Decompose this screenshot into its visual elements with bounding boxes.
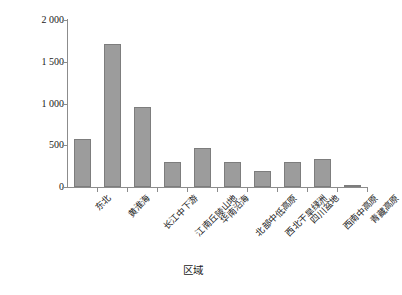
x-category-label: 长江中下游: [161, 193, 201, 233]
y-tick-mark: [62, 62, 67, 63]
bar: [254, 171, 271, 187]
y-tick-mark: [62, 145, 67, 146]
x-tick-mark: [367, 188, 368, 192]
y-tick-label: 1 000: [24, 99, 64, 109]
x-axis-title: 区域: [0, 265, 385, 277]
x-tick-mark: [247, 188, 248, 192]
bar: [194, 148, 211, 187]
x-category-label: 黄淮海: [126, 193, 153, 220]
x-tick-mark: [277, 188, 278, 192]
x-tick-mark: [307, 188, 308, 192]
y-axis-tick-labels: 05001 0001 5002 000: [22, 0, 64, 295]
bar: [314, 159, 331, 187]
x-tick-mark: [337, 188, 338, 192]
bar: [344, 185, 361, 187]
x-tick-mark: [217, 188, 218, 192]
bar: [134, 107, 151, 187]
y-tick-label: 0: [24, 182, 64, 192]
x-tick-mark: [127, 188, 128, 192]
y-tick-mark: [62, 20, 67, 21]
bar: [284, 162, 301, 187]
x-category-label: 东北: [93, 193, 114, 214]
y-tick-mark: [62, 104, 67, 105]
plot-area: [67, 20, 367, 187]
y-tick-mark: [62, 187, 67, 188]
x-tick-mark: [187, 188, 188, 192]
y-tick-label: 500: [24, 140, 64, 150]
bar: [224, 162, 241, 187]
x-tick-mark: [97, 188, 98, 192]
bar: [104, 44, 121, 187]
y-tick-label: 2 000: [24, 15, 64, 25]
bar: [74, 139, 91, 187]
bar: [164, 162, 181, 187]
x-tick-mark: [157, 188, 158, 192]
y-tick-label: 1 500: [24, 57, 64, 67]
